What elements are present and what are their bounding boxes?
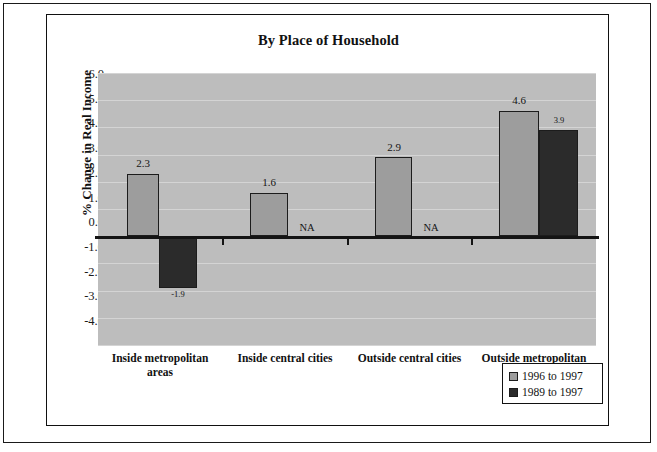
- y-tick-label-neg4: -4.0: [44, 315, 104, 328]
- bar-value-label-3-9: 3.9: [533, 115, 585, 125]
- y-tick-label-1: 1.0: [44, 192, 104, 205]
- x-category-line-1: Inside central cities: [223, 351, 347, 365]
- plot-area: 2.3 -1.9 1.6 NA 2.9 NA 4.6 3.9: [98, 73, 596, 345]
- legend-item-1989-to-1997[interactable]: 1989 to 1997: [509, 384, 602, 400]
- y-tick-label-neg3: -3.0: [44, 290, 104, 303]
- legend-label-1989-to-1997: 1989 to 1997: [522, 386, 583, 398]
- x-category-label-inside-metropolitan-areas: Inside metropolitan areas: [98, 351, 222, 379]
- chart-container: By Place of Household % Change in Real I…: [46, 14, 609, 426]
- chart-legend: 1996 to 1997 1989 to 1997: [502, 363, 603, 404]
- legend-label-1996-to-1997: 1996 to 1997: [522, 370, 583, 382]
- bar-na-label-inside-central-cities: NA: [290, 222, 324, 233]
- bar-value-label-2-9: 2.9: [368, 141, 420, 153]
- bar-1996to1997-inside-central-cities[interactable]: [250, 193, 288, 237]
- gridline-neg3: [98, 318, 596, 319]
- x-category-line-1: Outside central cities: [347, 351, 472, 365]
- page-root: By Place of Household % Change in Real I…: [0, 0, 657, 452]
- x-axis-tick-2: [347, 238, 349, 245]
- bar-value-label-4-6: 4.6: [493, 94, 545, 106]
- gridline-6: [98, 73, 596, 74]
- bar-value-label-neg1-9: -1.9: [152, 289, 204, 299]
- legend-swatch-icon-dark: [509, 388, 518, 397]
- bar-1989to1997-outside-metropolitan-areas[interactable]: [539, 130, 578, 236]
- y-tick-label-3: 3.0: [44, 142, 104, 155]
- x-category-label-outside-central-cities: Outside central cities: [347, 351, 472, 365]
- bar-na-label-outside-central-cities: NA: [414, 222, 448, 233]
- y-tick-label-2: 2.0: [44, 167, 104, 180]
- bar-1996to1997-outside-metropolitan-areas[interactable]: [499, 111, 539, 236]
- y-tick-label-4: 4.0: [44, 117, 104, 130]
- bar-1989to1997-inside-metropolitan-areas[interactable]: [159, 236, 197, 288]
- x-axis-tick-1: [222, 238, 224, 245]
- bar-1996to1997-inside-metropolitan-areas[interactable]: [127, 174, 159, 237]
- x-axis-tick-3: [471, 238, 473, 245]
- bar-1996to1997-outside-central-cities[interactable]: [375, 157, 412, 236]
- y-tick-label-5: 5.0: [44, 93, 104, 106]
- bar-value-label-1-6: 1.6: [243, 176, 295, 188]
- legend-item-1996-to-1997[interactable]: 1996 to 1997: [509, 368, 602, 384]
- y-tick-label-neg2: -2.0: [44, 266, 104, 279]
- x-category-label-inside-central-cities: Inside central cities: [223, 351, 347, 365]
- x-category-line-2: areas: [98, 365, 222, 379]
- legend-swatch-icon-light: [509, 372, 518, 381]
- y-tick-label-6: 6.0: [44, 68, 104, 81]
- y-tick-label-neg1: -1.0: [44, 241, 104, 254]
- x-category-line-1: Inside metropolitan: [98, 351, 222, 365]
- y-tick-label-0: 0.0: [44, 216, 104, 229]
- chart-title: By Place of Household: [47, 32, 610, 49]
- gridline-neg4: [98, 345, 596, 346]
- bar-value-label-2-3: 2.3: [117, 157, 169, 169]
